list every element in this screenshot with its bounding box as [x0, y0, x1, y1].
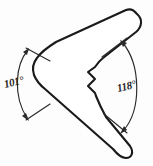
right-angle-label: 118°: [116, 77, 138, 93]
left-angle-lower-leg: [26, 104, 50, 120]
left-angle-upper-arrowhead: [23, 48, 29, 55]
boomerang-diagram-svg: Boomerang shape with two marked angles 1…: [0, 0, 153, 166]
left-angle-label: 101°: [3, 73, 26, 90]
figure-container: Boomerang shape with two marked angles 1…: [0, 0, 153, 166]
